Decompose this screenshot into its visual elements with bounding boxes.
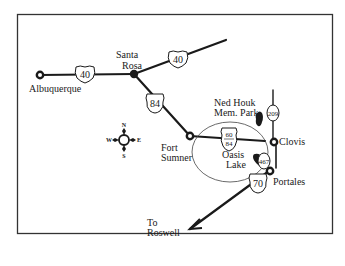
shield-nm209: 209 xyxy=(267,105,279,121)
shield-i40-west: 40 xyxy=(75,66,95,83)
shield-nm209-label: 209 xyxy=(268,110,279,118)
label-fort-sumner-line2: Sumner xyxy=(161,153,192,163)
shield-us84-label: 84 xyxy=(150,98,160,109)
shield-us60-84-bottom-label: 84 xyxy=(226,140,234,148)
label-albuquerque: Albuquerque xyxy=(29,84,81,94)
city-dot-fort-sumner xyxy=(187,133,193,139)
shield-i40-west-label: 40 xyxy=(80,69,90,80)
city-dot-clovis xyxy=(271,139,277,145)
shield-us70: 70 xyxy=(249,174,267,193)
shield-us70-label: 70 xyxy=(253,178,263,189)
city-dot-albuquerque xyxy=(37,72,43,78)
compass-w-label: W xyxy=(106,137,112,143)
shield-nm467-label: 467 xyxy=(259,158,270,166)
compass-rose-icon: N S W E xyxy=(106,122,141,159)
label-oasis-lake-line2: Lake xyxy=(226,160,246,170)
shield-us84: 84 xyxy=(146,94,164,113)
city-dot-santa-rosa xyxy=(130,70,138,78)
city-dot-portales xyxy=(267,168,273,174)
shield-nm467: 467 xyxy=(258,153,270,169)
label-roswell-line2: Roswell xyxy=(147,228,180,238)
label-santa-rosa-line1: Santa xyxy=(116,50,138,60)
compass-n-label: N xyxy=(122,122,127,128)
label-santa-rosa-line2: Rosa xyxy=(122,61,142,71)
label-ned-houk-line2: Mem. Park xyxy=(214,108,258,118)
shield-i40-east-label: 40 xyxy=(173,54,183,65)
shield-us60-84-top-label: 60 xyxy=(226,131,234,139)
compass-s-label: S xyxy=(122,153,126,159)
map-border xyxy=(18,15,333,234)
label-portales: Portales xyxy=(273,177,305,187)
label-clovis: Clovis xyxy=(279,137,305,147)
shield-us60-84: 60 84 xyxy=(221,128,237,151)
shield-i40-east: 40 xyxy=(168,51,188,68)
compass-e-label: E xyxy=(137,137,141,143)
